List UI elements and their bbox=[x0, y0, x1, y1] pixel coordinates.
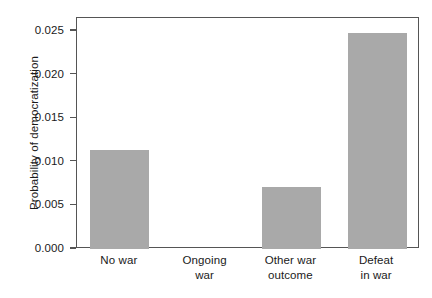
x-axis-tick-label-line: No war bbox=[76, 253, 162, 268]
x-axis-tick-label-line: Defeat bbox=[333, 253, 419, 268]
y-axis-tick-label: 0.000 bbox=[0, 240, 64, 256]
x-axis-tick-label-line: in war bbox=[333, 268, 419, 283]
bar bbox=[348, 33, 407, 249]
bar-chart-figure: Probability of democratization 0.0000.00… bbox=[0, 0, 432, 298]
y-axis-tick-label: 0.010 bbox=[0, 153, 64, 169]
x-axis-tick-label-line: outcome bbox=[248, 268, 334, 283]
x-axis-tick-label: Other waroutcome bbox=[248, 253, 334, 282]
plot-area bbox=[76, 17, 419, 248]
x-axis-tick-label-line: war bbox=[162, 268, 248, 283]
bar bbox=[90, 150, 149, 249]
y-axis-title: Probability of democratization bbox=[22, 17, 46, 249]
y-axis-tick-label: 0.005 bbox=[0, 196, 64, 212]
x-axis-tick-label: No war bbox=[76, 253, 162, 268]
x-axis-tick-label-line: Ongoing bbox=[162, 253, 248, 268]
bar bbox=[262, 187, 321, 249]
y-axis-tick-label: 0.015 bbox=[0, 109, 64, 125]
x-axis-tick-label: Defeatin war bbox=[333, 253, 419, 282]
y-axis-tick-label: 0.020 bbox=[0, 66, 64, 82]
x-axis-tick-label-line: Other war bbox=[248, 253, 334, 268]
x-axis-tick-label: Ongoingwar bbox=[162, 253, 248, 282]
y-axis-tick-label: 0.025 bbox=[0, 22, 64, 38]
